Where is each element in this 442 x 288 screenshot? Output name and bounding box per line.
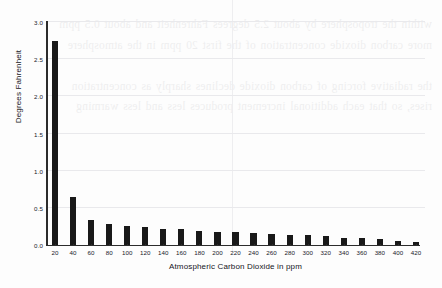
- x-tick-label: 340: [339, 249, 349, 256]
- y-axis-tick-labels: 0.00.51.01.52.02.53.0: [28, 22, 43, 245]
- x-tick-label: 120: [140, 249, 150, 256]
- bar: [52, 41, 58, 245]
- gridline: [46, 21, 425, 22]
- gridline: [46, 95, 425, 96]
- y-tick-label: 0.5: [34, 204, 43, 211]
- x-tick-label: 80: [106, 249, 113, 256]
- gridline: [46, 58, 425, 59]
- bar: [196, 231, 202, 245]
- y-tick-label: 1.0: [34, 167, 43, 174]
- x-tick-label: 100: [122, 249, 132, 256]
- x-tick-label: 220: [230, 249, 240, 256]
- x-tick-label: 300: [302, 249, 312, 256]
- y-tick-label: 2.5: [34, 56, 43, 63]
- x-tick-label: 380: [375, 249, 385, 256]
- y-tick-label: 3.0: [34, 19, 43, 26]
- y-tick-label: 2.0: [34, 93, 43, 100]
- bar: [214, 232, 220, 245]
- x-tick-label: 40: [70, 249, 77, 256]
- x-tick-label: 420: [411, 249, 421, 256]
- bar: [178, 229, 184, 245]
- x-tick-label: 240: [248, 249, 258, 256]
- bar: [142, 227, 148, 245]
- x-tick-label: 280: [284, 249, 294, 256]
- x-tick-label: 160: [176, 249, 186, 256]
- plot-area: [46, 22, 425, 245]
- bar: [160, 229, 166, 245]
- bar: [70, 197, 76, 245]
- bar: [124, 226, 130, 245]
- x-tick-label: 20: [52, 249, 59, 256]
- y-tick-label: 1.5: [34, 130, 43, 137]
- x-tick-label: 60: [88, 249, 95, 256]
- gridline: [46, 133, 425, 134]
- bar: [106, 224, 112, 245]
- y-axis-title: Degrees Fahrenheit: [14, 37, 23, 137]
- x-tick-label: 140: [158, 249, 168, 256]
- gridline: [46, 207, 425, 208]
- gridline: [46, 170, 425, 171]
- chart-page: within the troposphere by about 2.5 degr…: [0, 0, 442, 288]
- x-tick-label: 200: [212, 249, 222, 256]
- y-tick-label: 0.0: [34, 242, 43, 249]
- x-axis-title: Atmospheric Carbon Dioxide in ppm: [46, 262, 425, 271]
- x-tick-label: 360: [357, 249, 367, 256]
- x-tick-label: 180: [194, 249, 204, 256]
- x-tick-label: 260: [266, 249, 276, 256]
- bar: [88, 220, 94, 245]
- y-axis-line: [46, 21, 48, 246]
- x-axis-line: [46, 245, 420, 246]
- x-tick-label: 320: [320, 249, 330, 256]
- x-tick-label: 400: [393, 249, 403, 256]
